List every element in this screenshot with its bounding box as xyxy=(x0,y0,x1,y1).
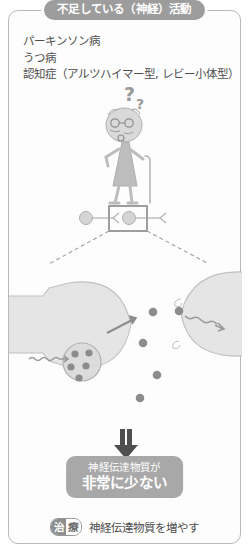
treatment-badge-char-1: 治 xyxy=(51,519,66,535)
synaptic-vesicle xyxy=(63,343,101,381)
treatment-badge-char-2: 療 xyxy=(66,519,81,535)
neurotransmitter-dots xyxy=(136,308,162,403)
info-card: 不足している（神経）活動 パーキンソン病 うつ病 認知症（アルツハイマー型, レ… xyxy=(8,10,241,544)
conclusion-line-2: 非常に少ない xyxy=(82,474,168,492)
elderly-person-icon xyxy=(106,108,150,203)
treatment-badge: 治 療 xyxy=(50,518,82,536)
presynaptic-terminal xyxy=(9,282,136,382)
svg-text:?: ? xyxy=(124,83,135,105)
header-badge: 不足している（神経）活動 xyxy=(44,0,204,20)
svg-text:?: ? xyxy=(136,96,144,112)
conclusion-box: 神経伝達物質が 非常に少ない xyxy=(66,456,184,498)
double-down-arrow xyxy=(114,429,138,459)
bound-neurotransmitter xyxy=(175,307,184,316)
conclusion-line-1: 神経伝達物質が xyxy=(82,460,168,474)
neuron-chain-overview xyxy=(49,206,209,264)
list-item: 認知症（アルツハイマー型, レビー小体型） xyxy=(23,66,232,83)
question-marks-icon: ? ? xyxy=(124,83,144,112)
disease-list: パーキンソン病 うつ病 認知症（アルツハイマー型, レビー小体型） xyxy=(23,33,232,83)
treatment-text: 神経伝達物質を増やす xyxy=(89,519,199,535)
vesicle-release-arrow xyxy=(107,316,136,333)
incoming-impulse-arrow xyxy=(29,356,68,362)
list-item: うつ病 xyxy=(23,50,232,67)
card-header: 不足している（神経）活動 xyxy=(9,0,240,20)
postsynaptic-membrane xyxy=(173,272,242,356)
synapse-zoom-box xyxy=(109,206,147,231)
postsynaptic-signal-arrow xyxy=(185,316,224,331)
treatment-row: 治 療 神経伝達物質を増やす xyxy=(9,518,240,536)
list-item: パーキンソン病 xyxy=(23,33,232,50)
